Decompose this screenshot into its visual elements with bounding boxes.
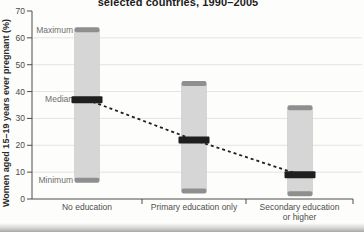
svg-text:0: 0 [20,194,25,204]
svg-text:60: 60 [16,33,26,43]
category-label-secondary-education: Secondary education or higher [257,203,342,222]
svg-text:50: 50 [16,60,26,70]
chart-figure: selected countries, 1990–2005 Women aged… [0,0,364,232]
svg-text:70: 70 [16,6,26,16]
chart-svg: 010203040506070 [0,0,364,232]
svg-text:10: 10 [16,167,26,177]
svg-text:30: 30 [16,113,26,123]
category-label-no-education: No education [32,203,142,213]
page-edge-shadow [0,223,364,232]
category-label-primary-education: Primary education only [142,203,246,213]
svg-text:20: 20 [16,140,26,150]
svg-text:40: 40 [16,87,26,97]
